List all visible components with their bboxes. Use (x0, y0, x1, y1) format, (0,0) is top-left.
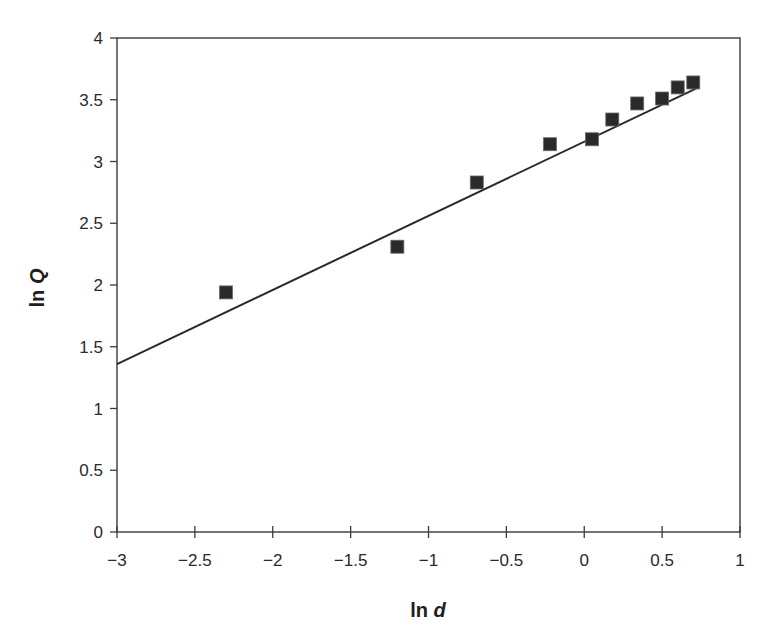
y-tick-label: 2 (94, 276, 103, 295)
scatter-chart: 00.511.522.533.54 −3−2.5−2−1.5−1−0.500.5… (0, 0, 766, 640)
x-tick-label: −0.5 (490, 551, 524, 570)
x-tick-label: 0.5 (650, 551, 674, 570)
data-points (220, 76, 700, 299)
x-axis-title-main: ln (410, 599, 433, 621)
y-tick-label: 3.5 (79, 91, 103, 110)
trendline (117, 88, 696, 364)
x-axis-title: ln d (410, 599, 446, 621)
x-tick-label: −1.5 (334, 551, 368, 570)
data-point-square (687, 76, 700, 89)
data-point-square (391, 240, 404, 253)
y-tick-label: 1.5 (79, 338, 103, 357)
data-point-square (671, 81, 684, 94)
x-tick-label: −2.5 (178, 551, 212, 570)
y-axis-ticks: 00.511.522.533.54 (79, 29, 117, 542)
y-tick-label: 0 (94, 523, 103, 542)
regression-line (117, 88, 696, 364)
data-point-square (220, 286, 233, 299)
data-point-square (586, 133, 599, 146)
y-axis-title: ln Q (26, 268, 48, 307)
y-tick-label: 4 (94, 29, 103, 48)
y-tick-label: 1 (94, 400, 103, 419)
x-tick-label: 1 (735, 551, 744, 570)
x-tick-label: −3 (107, 551, 126, 570)
data-point-square (631, 97, 644, 110)
data-point-square (543, 138, 556, 151)
y-axis-title-main: ln (26, 284, 48, 307)
y-tick-label: 3 (94, 153, 103, 172)
y-axis-title-var: Q (26, 268, 48, 284)
data-point-square (606, 113, 619, 126)
x-tick-label: 0 (580, 551, 589, 570)
data-point-square (470, 176, 483, 189)
x-tick-label: −1 (419, 551, 438, 570)
y-tick-label: 0.5 (79, 461, 103, 480)
x-tick-label: −2 (263, 551, 282, 570)
y-tick-label: 2.5 (79, 214, 103, 233)
x-axis-title-var: d (434, 599, 447, 621)
data-point-square (656, 92, 669, 105)
